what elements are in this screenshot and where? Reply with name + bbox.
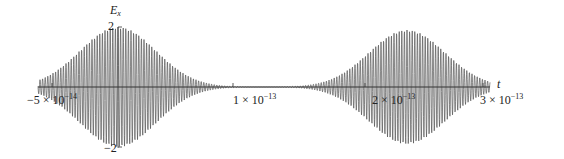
- x-tick-label-1: 1 × 10−13: [233, 93, 276, 106]
- x-axis-title: t: [497, 78, 500, 90]
- x-tick-label-2: 2 × 10−13: [372, 93, 415, 106]
- y-tick-label-bottom: −2: [104, 142, 117, 154]
- x-tick-label-0: −5 × 10−14: [27, 93, 77, 106]
- x-tick-label-3: 3 × 10−13: [480, 93, 523, 106]
- y-axis-title: Ex: [110, 4, 121, 18]
- y-tick-label-top: 2: [108, 20, 114, 32]
- wave-packet-chart: [0, 0, 564, 159]
